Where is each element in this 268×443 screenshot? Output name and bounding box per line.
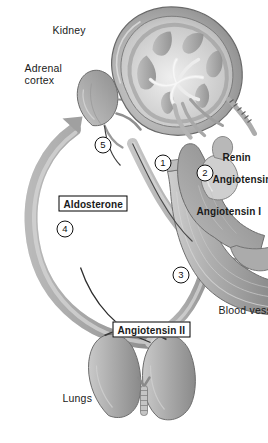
- label-aldosterone: Aldosterone: [58, 195, 127, 211]
- step-marker-4: 4: [56, 220, 73, 237]
- kidney: [111, 6, 254, 137]
- label-angiotensin-ii: Angiotensin II: [112, 321, 190, 337]
- label-adrenal-cortex: Adrenal cortex: [24, 61, 62, 85]
- ureter: [228, 99, 254, 133]
- step-marker-2: 2: [196, 164, 213, 181]
- raas-diagram: Lungs Angiotensin II Aldosterone Adrenal…: [0, 0, 268, 443]
- step-marker-3: 3: [172, 266, 189, 283]
- step-marker-1: 1: [154, 154, 171, 171]
- label-angiotensin-i: Angiotensin I: [196, 205, 261, 216]
- label-blood-vessel: Blood vessel: [218, 303, 268, 315]
- label-adrenal-cortex-line1: Adrenal: [24, 61, 62, 73]
- label-angiotensinogen: Angiotensinogen: [212, 173, 268, 184]
- step-marker-5: 5: [94, 136, 111, 153]
- diagram-scene: Lungs Angiotensin II Aldosterone Adrenal…: [0, 0, 268, 443]
- label-adrenal-cortex-line2: cortex: [24, 73, 62, 85]
- label-renin: Renin: [222, 151, 250, 162]
- label-kidney: Kidney: [52, 23, 85, 35]
- label-lungs: Lungs: [62, 391, 92, 403]
